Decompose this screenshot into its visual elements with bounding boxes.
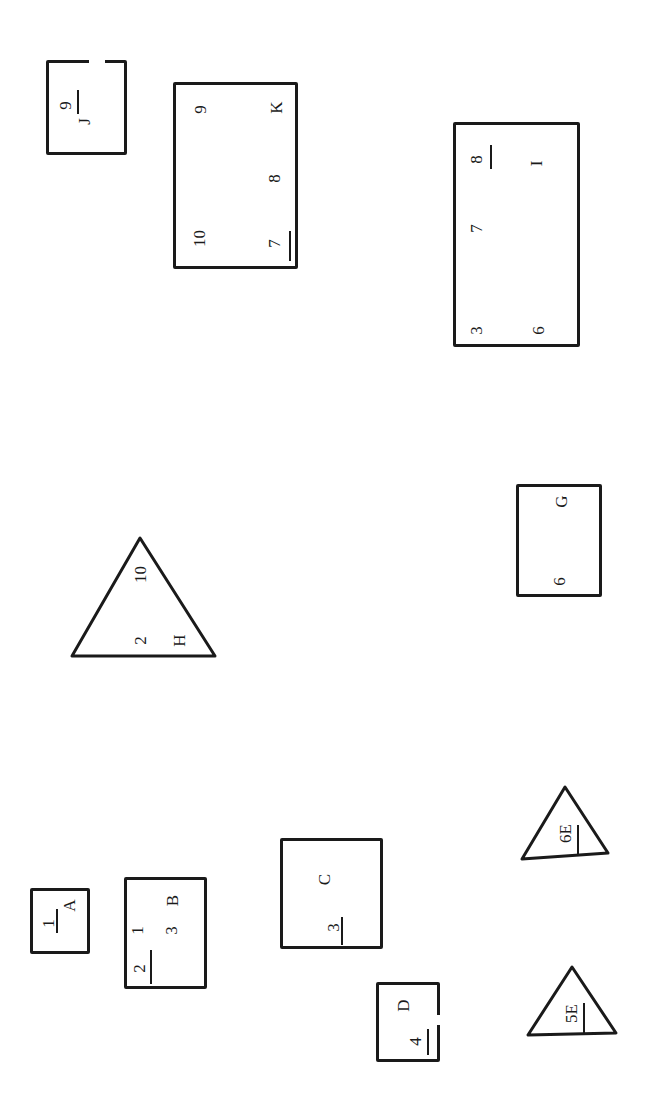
- label-9: 9: [192, 105, 209, 114]
- shape-i: 8 I 7 3 6: [453, 122, 580, 347]
- label-4: 4: [407, 1037, 424, 1046]
- label-h: H: [171, 634, 188, 646]
- shape-e6-triangle: [515, 783, 615, 863]
- label-g: G: [553, 495, 570, 507]
- shape-c: C 3: [280, 838, 383, 949]
- label-3: 3: [163, 926, 180, 935]
- shape-d: D 4: [376, 982, 440, 1062]
- shape-e5-triangle: [520, 963, 620, 1043]
- label-d: D: [395, 999, 412, 1011]
- shape-k: 9 K 10 8 7: [173, 82, 298, 269]
- shape-j: 9 J: [46, 60, 127, 155]
- label-6e: 6E: [557, 824, 574, 843]
- label-2: 2: [132, 636, 149, 645]
- label-7: 7: [468, 224, 485, 233]
- label-i: I: [528, 161, 545, 167]
- label-8: 8: [468, 155, 485, 164]
- label-6: 6: [551, 577, 568, 586]
- label-3: 3: [468, 326, 485, 335]
- label-2: 2: [131, 964, 148, 973]
- label-k: K: [268, 101, 285, 113]
- label-j: J: [76, 118, 93, 125]
- label-8: 8: [266, 174, 283, 183]
- label-7: 7: [266, 239, 283, 248]
- underline: [490, 145, 492, 169]
- label-6: 6: [530, 326, 547, 335]
- shape-h-triangle: [60, 530, 230, 670]
- shape-a: 1 A: [30, 888, 90, 954]
- label-1: 1: [40, 919, 57, 928]
- label-a: A: [61, 899, 78, 911]
- underline: [150, 950, 152, 984]
- border-gap: [89, 60, 105, 63]
- label-b: B: [164, 895, 181, 906]
- label-3: 3: [325, 923, 342, 932]
- shape-b: B 1 3 2: [124, 877, 207, 989]
- underline: [341, 917, 343, 945]
- underline: [427, 1029, 429, 1055]
- label-1: 1: [129, 926, 146, 935]
- label-10: 10: [132, 566, 149, 583]
- shape-g: G 6: [516, 484, 602, 597]
- underline: [577, 825, 579, 855]
- underline: [77, 90, 79, 114]
- underline: [289, 231, 291, 261]
- label-9: 9: [57, 101, 74, 110]
- underline: [56, 909, 58, 933]
- underline: [583, 1003, 585, 1033]
- border-gap: [437, 1015, 440, 1025]
- label-c: C: [316, 874, 333, 885]
- label-5e: 5E: [563, 1004, 580, 1023]
- label-10: 10: [191, 230, 208, 247]
